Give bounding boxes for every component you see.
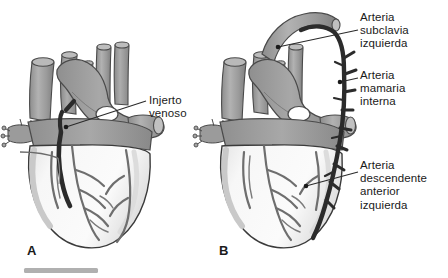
pulmonary-trunk-a (114, 45, 129, 105)
vein-tip-b3 (194, 143, 198, 147)
vein-tip-b1 (194, 126, 198, 130)
vessel-lumen-b6 (346, 117, 356, 134)
label-arteria-descendente-anterior-izquierda: Arteria descendente anterior izquierda (360, 159, 427, 212)
vessel-lumen-a5 (115, 42, 129, 48)
brachiocephalic-trunk-b (222, 62, 246, 122)
bottom-rule (24, 268, 98, 273)
panel-letter-b: B (219, 243, 228, 258)
vessel-lumen-a4 (97, 44, 111, 50)
vein-tip-b2 (193, 134, 197, 138)
vessel-lumen-b4 (289, 44, 303, 50)
label-arteria-mamaria-interna: Arteria mamaria interna (360, 69, 405, 109)
vessel-lumen-b1 (224, 58, 246, 66)
label-injerto-venoso: Injerto venoso (149, 94, 187, 120)
vein-tip-a1 (2, 126, 6, 130)
vein-tip-a2 (1, 134, 5, 138)
vessel-lumen-a2 (62, 52, 78, 58)
venous-graft-proximal-a (60, 112, 62, 132)
panel-letter-a: A (27, 243, 36, 258)
vessel-lumen-a1 (32, 58, 54, 66)
brachiocephalic-trunk-a (30, 62, 54, 122)
vein-tip-a3 (2, 143, 6, 147)
label-arteria-subclavia-izquierda: Arteria subclavia izquierda (360, 11, 409, 51)
